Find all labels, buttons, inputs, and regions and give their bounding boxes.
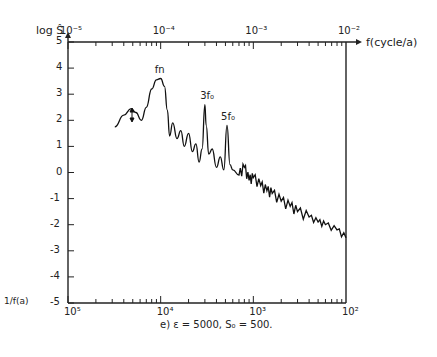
spectrum-curve — [115, 79, 346, 238]
x-top-tick-label: 10⁻² — [338, 26, 360, 36]
chart-caption: e) ε = 5000, S₀ = 500. — [160, 320, 273, 330]
x-bottom-tick-label: 10⁴ — [157, 307, 174, 317]
x-axis-label: f(cycle/a) — [366, 37, 417, 48]
y-tick-label: -2 — [50, 219, 60, 229]
x-top-tick-label: 10⁻⁵ — [60, 26, 82, 36]
y-tick-label: -4 — [50, 271, 60, 281]
x-top-tick-label: 10⁻⁴ — [153, 26, 175, 36]
y-tick-label: -5 — [50, 297, 60, 307]
peak-annotation: 5f₀ — [221, 112, 235, 122]
spectrum-chart — [0, 0, 437, 357]
peak-annotation: 3f₀ — [200, 91, 214, 101]
x-top-tick-label: 10⁻³ — [245, 26, 267, 36]
y-tick-label: 1 — [56, 140, 62, 150]
peak-annotation: fn — [155, 65, 165, 75]
y-tick-label: -3 — [50, 245, 60, 255]
x-axis-arrow-icon — [356, 39, 362, 45]
y-tick-label: 3 — [56, 88, 62, 98]
double-arrow-icon — [130, 108, 134, 122]
y-tick-label: 0 — [56, 167, 62, 177]
x-bottom-tick-label: 10³ — [249, 307, 266, 317]
y-tick-label: 5 — [56, 36, 62, 46]
y-tick-label: 2 — [56, 114, 62, 124]
y-tick-label: -1 — [50, 193, 60, 203]
x-axis-bottom-label: 1/f(a) — [4, 297, 28, 306]
x-bottom-tick-label: 10² — [342, 307, 359, 317]
y-tick-label: 4 — [56, 62, 62, 72]
x-bottom-tick-label: 10⁵ — [64, 307, 81, 317]
